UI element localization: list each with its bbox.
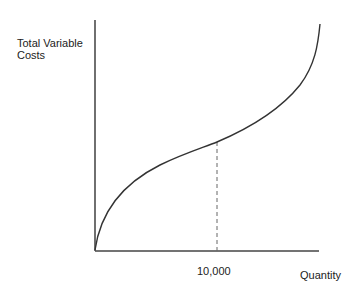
cost-curve bbox=[95, 24, 320, 250]
chart-plot bbox=[0, 0, 359, 291]
